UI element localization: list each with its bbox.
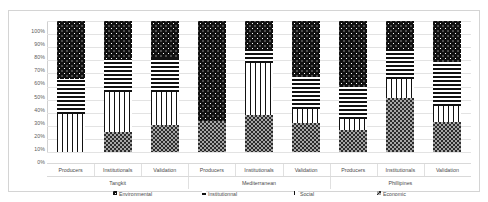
bar-segment-institutionnal xyxy=(57,79,85,114)
bar-segment-environmental xyxy=(433,21,461,62)
y-axis-tick-label: 80% xyxy=(34,54,45,60)
stacked-bar xyxy=(57,21,85,152)
y-axis-tick-label: 20% xyxy=(34,133,45,139)
bar-segment-environmental xyxy=(198,21,226,121)
legend-label: Institutionnal xyxy=(208,191,237,197)
stacked-bar xyxy=(386,21,414,152)
y-axis-tick-label: 90% xyxy=(34,41,45,47)
bar-segment-institutionnal xyxy=(104,59,132,92)
stacked-bar xyxy=(104,21,132,152)
bar-segment-economic xyxy=(245,115,273,152)
stacked-bar xyxy=(292,21,320,152)
bar-segment-social xyxy=(151,92,179,125)
legend-label: Social xyxy=(300,191,314,197)
stacked-bar xyxy=(198,21,226,152)
y-axis-tick-label: 30% xyxy=(34,120,45,126)
legend-item[interactable]: Economic xyxy=(377,188,406,198)
gridline xyxy=(47,152,471,153)
y-axis-tick-label: 60% xyxy=(34,80,45,86)
bar-segment-environmental xyxy=(104,21,132,59)
economic-swatch-icon xyxy=(377,191,381,195)
legend-item[interactable]: Institutionnal xyxy=(202,188,237,198)
bar-segment-economic xyxy=(339,130,367,152)
stacked-bar xyxy=(433,21,461,152)
bar-segment-environmental xyxy=(151,21,179,58)
bar-segment-environmental xyxy=(339,21,367,87)
bar-series-area xyxy=(47,21,471,152)
legend-item[interactable]: Environmental xyxy=(113,188,152,198)
bar-segment-institutionnal xyxy=(151,58,179,92)
category-axis: ProducersInstitutionalsValidationProduce… xyxy=(47,163,471,177)
chart-legend: EnvironmentalInstitutionnalSocialEconomi… xyxy=(47,188,471,198)
bar-segment-environmental xyxy=(57,21,85,79)
bar-segment-economic xyxy=(292,123,320,152)
bar-segment-institutionnal xyxy=(386,49,414,79)
institutionnal-swatch-icon xyxy=(202,191,206,195)
bar-segment-economic xyxy=(198,121,226,152)
bar-segment-social xyxy=(339,119,367,129)
y-axis-labels: 100%90%80%70%60%50%40%30%20%10%0% xyxy=(17,21,47,162)
environmental-swatch-icon xyxy=(113,191,117,195)
stacked-bar xyxy=(245,21,273,152)
bar-segment-economic xyxy=(433,122,461,152)
y-axis-tick-label: 70% xyxy=(34,67,45,73)
y-axis-tick-label: 10% xyxy=(34,146,45,152)
bar-segment-economic xyxy=(386,98,414,152)
legend-label: Economic xyxy=(383,191,406,197)
social-swatch-icon xyxy=(294,191,298,195)
y-axis-tick-label: 100% xyxy=(31,28,45,34)
bar-segment-institutionnal xyxy=(245,50,273,63)
bar-segment-economic xyxy=(151,125,179,153)
chart-container: 100%90%80%70%60%50%40%30%20%10%0% Produc… xyxy=(8,10,480,192)
y-axis-tick-label: 50% xyxy=(34,94,45,100)
bar-segment-institutionnal xyxy=(433,62,461,107)
bar-segment-social xyxy=(386,79,414,99)
plot-area xyxy=(47,21,471,162)
bar-segment-institutionnal xyxy=(339,87,367,120)
stacked-bar xyxy=(339,21,367,152)
y-axis-tick-label: 40% xyxy=(34,107,45,113)
legend-label: Environmental xyxy=(119,191,152,197)
bar-segment-environmental xyxy=(292,21,320,77)
bar-segment-social xyxy=(292,109,320,123)
bar-segment-social xyxy=(245,63,273,115)
y-axis-tick-label: 0% xyxy=(37,159,45,165)
stacked-bar xyxy=(151,21,179,152)
bar-segment-economic xyxy=(104,132,132,152)
bar-segment-social xyxy=(433,106,461,122)
bar-segment-environmental xyxy=(386,21,414,49)
bar-segment-environmental xyxy=(245,21,273,50)
bar-segment-social xyxy=(104,92,132,133)
bar-segment-institutionnal xyxy=(292,77,320,108)
bar-segment-social xyxy=(57,114,85,152)
legend-item[interactable]: Social xyxy=(294,188,314,198)
